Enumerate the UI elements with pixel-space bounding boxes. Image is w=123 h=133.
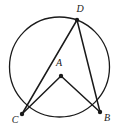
point-label-D: D <box>76 4 83 14</box>
segment-DC <box>22 20 77 114</box>
point-label-A: A <box>56 58 62 68</box>
segment-AB <box>61 76 100 112</box>
point-dot-D <box>75 18 79 22</box>
point-label-C: C <box>12 115 19 125</box>
geometry-figure: A D C B <box>0 0 123 133</box>
point-dot-B <box>98 110 102 114</box>
point-label-B: B <box>104 113 110 123</box>
point-dot-A <box>59 74 63 78</box>
point-dot-C <box>20 112 24 116</box>
